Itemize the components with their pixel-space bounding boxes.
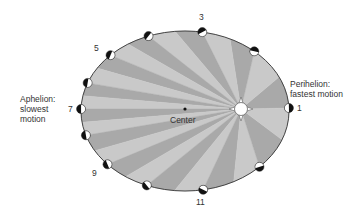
position-number-7: 7 (68, 104, 73, 114)
position-number-9: 9 (92, 168, 97, 178)
aphelion-label-line3: motion (20, 114, 55, 124)
position-number-5: 5 (94, 43, 99, 53)
aphelion-label-line2: slowest (20, 104, 55, 114)
position-number-3: 3 (199, 12, 204, 22)
planet-icon (77, 104, 86, 113)
perihelion-label-line2: fastest motion (290, 89, 343, 99)
aphelion-label-line1: Aphelion: (20, 94, 55, 104)
position-number-1: 1 (297, 103, 302, 113)
center-label: Center (170, 115, 196, 125)
center-dot (183, 107, 186, 110)
aphelion-label: Aphelion: slowest motion (20, 94, 55, 124)
planet-icon (284, 103, 293, 112)
position-number-11: 11 (196, 197, 205, 207)
perihelion-label: Perihelion: fastest motion (290, 79, 343, 99)
perihelion-label-line1: Perihelion: (290, 79, 343, 89)
